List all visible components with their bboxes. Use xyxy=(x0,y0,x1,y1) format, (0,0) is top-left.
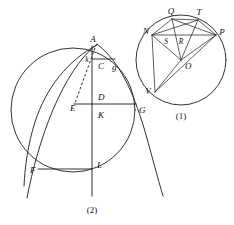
label-point-d: D xyxy=(97,92,105,102)
label-point-t: T xyxy=(196,7,202,17)
diagram-1-radius-ov xyxy=(155,60,181,92)
label-point-g-small: g xyxy=(112,62,117,72)
caption-diagram-1: (1) xyxy=(176,111,187,121)
label-point-l: L xyxy=(96,160,102,170)
diagram-1-segment-nq xyxy=(152,19,172,35)
label-point-f: F xyxy=(29,165,36,175)
diagram-2-parabola-curve xyxy=(27,44,163,198)
diagram-1-segment-tp xyxy=(198,20,216,35)
label-point-k-small: k xyxy=(85,55,89,64)
geometry-canvas: A k C g D E K G F L (2) xyxy=(0,0,234,225)
label-point-a: A xyxy=(89,34,96,44)
diagram-1-group: Q T N P S R O V (1) xyxy=(136,6,226,121)
label-point-k: K xyxy=(97,110,105,120)
label-point-q: Q xyxy=(168,6,175,16)
label-point-c: C xyxy=(98,61,105,71)
caption-diagram-2: (2) xyxy=(87,205,98,215)
label-point-o: O xyxy=(185,61,192,71)
label-point-r: R xyxy=(178,37,184,46)
geometry-figure: A k C g D E K G F L (2) xyxy=(0,0,234,225)
label-point-e: E xyxy=(69,103,76,113)
diagram-1-chord-nv xyxy=(152,35,155,92)
diagram-1-chord-qt xyxy=(172,19,198,20)
label-point-n: N xyxy=(142,26,150,36)
label-point-g: G xyxy=(139,105,146,115)
label-point-s: S xyxy=(164,37,168,46)
diagram-2-group: A k C g D E K G F L (2) xyxy=(11,34,163,215)
label-point-v: V xyxy=(145,86,152,96)
label-point-p: P xyxy=(218,27,225,37)
